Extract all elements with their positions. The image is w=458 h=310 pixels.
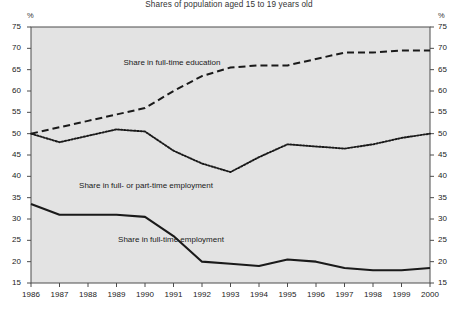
x-axis-tick-label: 1997: [330, 290, 360, 299]
y-axis-tick-label: 25: [438, 235, 456, 244]
y-axis-tick-label: 30: [3, 214, 21, 223]
y-axis-tick-label: 30: [438, 214, 456, 223]
x-axis-tick-label: 1991: [159, 290, 189, 299]
y-axis-tick-label: 65: [3, 65, 21, 74]
y-axis-tick-label: 15: [438, 278, 456, 287]
y-axis-tick-label: 35: [438, 193, 456, 202]
y-axis-tick-label: 45: [3, 150, 21, 159]
y-axis-tick-label: 55: [3, 107, 21, 116]
x-axis-tick-label: 1998: [358, 290, 388, 299]
y-axis-tick-label: 60: [3, 86, 21, 95]
x-axis-tick-label: 1990: [130, 290, 160, 299]
series-annotation-label: Share in full-time employment: [118, 235, 224, 244]
x-axis-tick-label: 1995: [273, 290, 303, 299]
y-axis-tick-label: 50: [438, 129, 456, 138]
x-axis-tick-label: 1996: [301, 290, 331, 299]
y-axis-tick-label: 60: [438, 86, 456, 95]
y-axis-tick-label: 70: [438, 43, 456, 52]
y-axis-tick-label: 25: [3, 235, 21, 244]
x-axis-tick-label: 1987: [45, 290, 75, 299]
series-annotation-label: Share in full- or part-time employment: [79, 181, 213, 190]
y-axis-tick-label: 55: [438, 107, 456, 116]
y-axis-tick-label: 40: [438, 171, 456, 180]
x-axis-tick-label: 1992: [187, 290, 217, 299]
chart-container: Shares of population aged 15 to 19 years…: [0, 0, 458, 310]
x-axis-tick-label: 2000: [415, 290, 445, 299]
x-axis-tick-label: 1993: [216, 290, 246, 299]
plot-background: [31, 27, 430, 283]
y-axis-tick-label: 20: [3, 257, 21, 266]
y-axis-tick-label: 65: [438, 65, 456, 74]
y-axis-tick-label: 70: [3, 43, 21, 52]
y-axis-tick-label: 20: [438, 257, 456, 266]
y-axis-tick-label: 75: [438, 22, 456, 31]
y-axis-tick-label: 15: [3, 278, 21, 287]
chart-plot: [0, 0, 458, 310]
x-axis-tick-label: 1989: [102, 290, 132, 299]
y-axis-tick-label: 50: [3, 129, 21, 138]
x-axis-tick-label: 1988: [73, 290, 103, 299]
y-axis-tick-label: 35: [3, 193, 21, 202]
x-axis-tick-label: 1994: [244, 290, 274, 299]
y-axis-tick-label: 40: [3, 171, 21, 180]
y-axis-tick-label: 45: [438, 150, 456, 159]
series-annotation-label: Share in full-time education: [124, 58, 221, 67]
y-axis-tick-label: 75: [3, 22, 21, 31]
x-axis-tick-label: 1986: [16, 290, 46, 299]
x-axis-tick-label: 1999: [387, 290, 417, 299]
